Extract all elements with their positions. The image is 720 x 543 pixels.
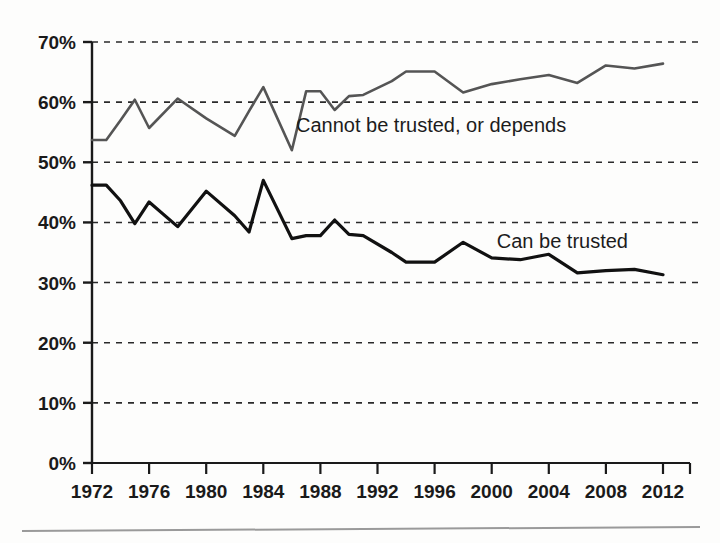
x-tick-label: 1984 [242, 481, 285, 502]
series-line [92, 180, 663, 274]
chart-figure: 0%10%20%30%40%50%60%70% 1972197619801984… [0, 0, 720, 543]
footer-rule [22, 527, 700, 531]
x-tick-label: 2000 [471, 481, 513, 502]
x-tick-label: 1988 [299, 481, 341, 502]
x-axis [92, 463, 690, 474]
x-tick-label: 2004 [528, 481, 571, 502]
y-tick-label: 70% [38, 32, 76, 53]
y-tick-labels: 0%10%20%30%40%50%60%70% [38, 32, 76, 474]
x-tick-labels: 1972197619801984198819921996200020042008… [71, 481, 684, 502]
y-tick-label: 60% [38, 92, 76, 113]
trust-line-chart: 0%10%20%30%40%50%60%70% 1972197619801984… [0, 0, 720, 543]
y-tick-label: 0% [49, 453, 77, 474]
y-tick-label: 40% [38, 212, 76, 233]
series-line [92, 64, 663, 151]
x-tick-label: 1976 [128, 481, 170, 502]
x-tick-label: 1980 [185, 481, 227, 502]
series-annotation: Cannot be trusted, or depends [296, 114, 566, 136]
y-axis [83, 42, 92, 463]
x-tick-label: 1996 [413, 481, 455, 502]
x-tick-label: 1972 [71, 481, 113, 502]
footer-divider [22, 527, 700, 531]
y-tick-label: 20% [38, 333, 76, 354]
grid-lines [92, 42, 700, 403]
x-tick-label: 1992 [356, 481, 398, 502]
series-annotation: Can be trusted [497, 230, 628, 252]
x-tick-label: 2008 [585, 481, 627, 502]
y-tick-label: 50% [38, 152, 76, 173]
x-tick-label: 2012 [642, 481, 684, 502]
y-tick-label: 30% [38, 273, 76, 294]
y-tick-label: 10% [38, 393, 76, 414]
